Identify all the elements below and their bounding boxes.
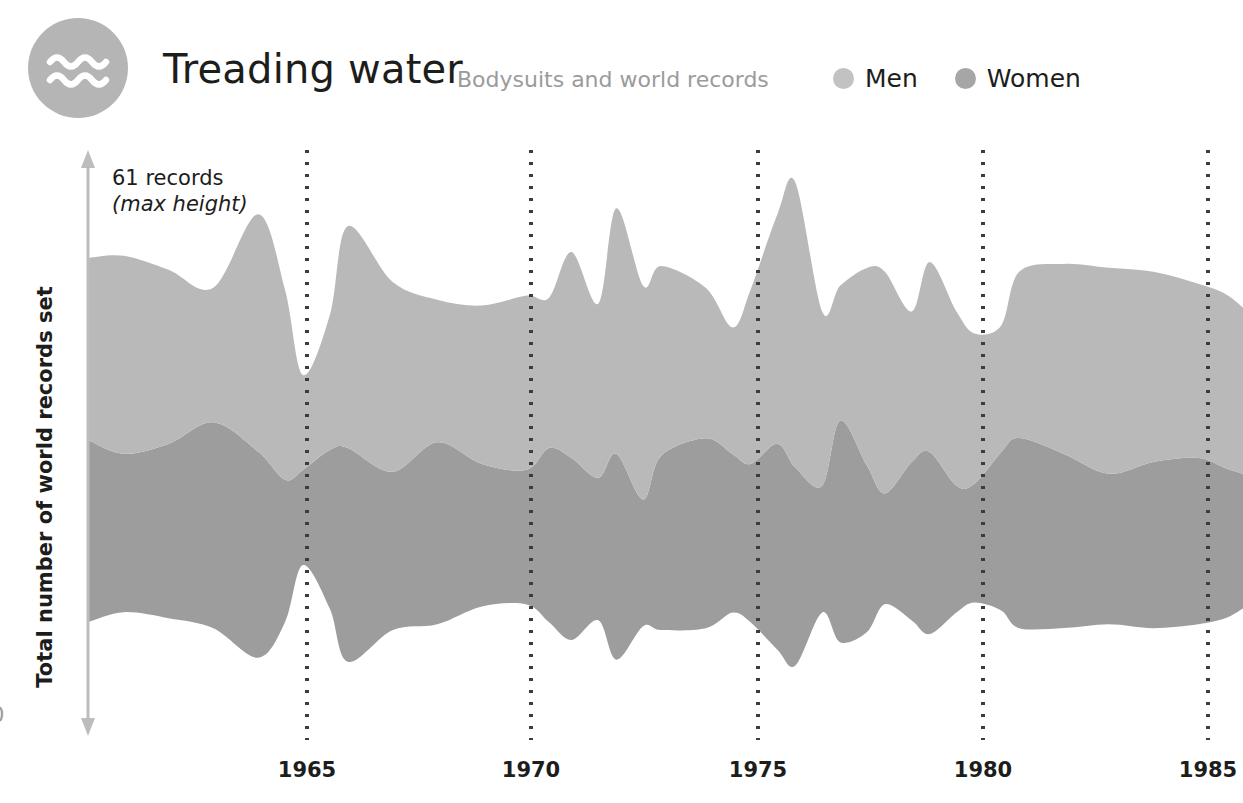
x-tick-label-1975: 1975	[729, 758, 787, 782]
area-band-men	[88, 178, 1243, 500]
annotation-line-1: 61 records	[112, 166, 248, 192]
x-tick-label-1965: 1965	[278, 758, 336, 782]
annotation-line-2: (max height)	[112, 192, 248, 218]
streamgraph-svg	[0, 0, 1243, 803]
chart-page: Treading water Bodysuits and world recor…	[0, 0, 1243, 803]
area-band-women	[88, 420, 1243, 667]
x-tick-label-1985: 1985	[1179, 758, 1237, 782]
x-tick-label-1970: 1970	[502, 758, 560, 782]
y-axis-label: Total number of world records set	[33, 227, 57, 747]
chart-plot-area: Total number of world records set 61 rec…	[0, 0, 1243, 803]
x-tick-label-1980: 1980	[954, 758, 1012, 782]
y-axis-zero-label: 0	[0, 703, 4, 727]
max-height-annotation: 61 records (max height)	[112, 166, 248, 217]
